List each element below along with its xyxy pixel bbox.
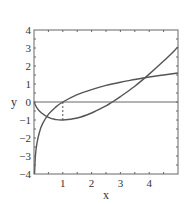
x-tick-label: 3 — [118, 177, 124, 189]
y-tick-labels: 43210−1−2−3−4 — [19, 24, 31, 180]
x-tick-label: 1 — [60, 177, 66, 189]
series-line-1 — [35, 73, 179, 174]
y-tick-label: −3 — [19, 150, 31, 162]
y-tick-label: 2 — [26, 60, 32, 72]
x-tick-label: 4 — [146, 177, 152, 189]
y-tick-label: −4 — [19, 168, 31, 180]
y-axis-label: y — [11, 95, 17, 109]
curves-layer — [34, 47, 178, 174]
series-line-2 — [34, 47, 178, 120]
chart-plot: 43210−1−2−3−4 1234 x y — [0, 0, 187, 204]
y-tick-label: 0 — [26, 96, 32, 108]
y-tick-label: 4 — [26, 24, 32, 36]
y-tick-label: 1 — [26, 78, 32, 90]
x-tick-label: 2 — [89, 177, 95, 189]
x-axis-label: x — [103, 188, 109, 202]
y-tick-label: 3 — [26, 42, 32, 54]
y-tick-label: −2 — [19, 132, 31, 144]
y-tick-label: −1 — [19, 114, 31, 126]
